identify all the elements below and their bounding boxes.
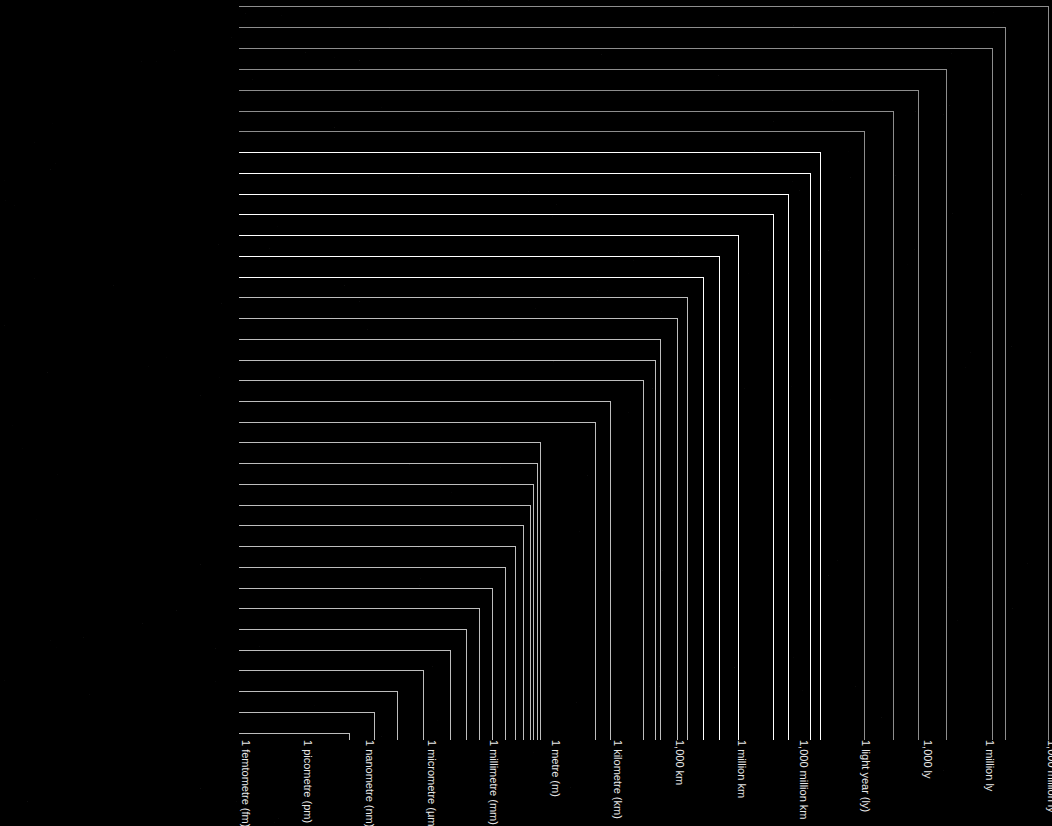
axis-tick-label: 1 metre (m)	[550, 740, 561, 797]
axis-tick-label: 1 kilometre (km)	[612, 740, 623, 819]
axis-tick-label: 1,000 ly	[922, 740, 933, 779]
scale-chart-figure: Distance to Quasar 1007 + 417Distance to…	[0, 0, 1052, 826]
axis-tick-label: 1 nanometre (nm)	[364, 740, 375, 826]
axis-tick-label: 1 millimetre (mm)	[488, 740, 499, 825]
axis-tick-label: 1,000 km	[674, 740, 685, 785]
x-axis: 1 femtometre (fm)1 picometre (pm)1 nanom…	[0, 0, 1052, 826]
axis-tick-label: 1 picometre (pm)	[302, 740, 313, 823]
axis-tick-label: 1,000 million km	[798, 740, 809, 819]
axis-tick-label: 1 light year (ly)	[860, 740, 871, 812]
axis-tick-label: 1 million km	[736, 740, 747, 798]
axis-tick-label: 1,000 million ly	[1046, 740, 1052, 813]
axis-tick-label: 1 million ly	[984, 740, 995, 791]
axis-tick-label: 1 femtometre (fm)	[240, 740, 251, 826]
axis-tick-label: 1 micrometre (µm)	[426, 740, 437, 826]
